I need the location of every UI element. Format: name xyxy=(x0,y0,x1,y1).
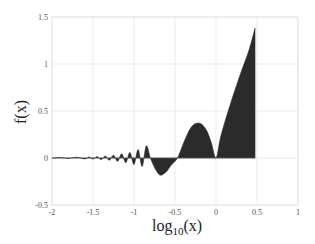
x-tick-label: -0.5 xyxy=(169,208,182,217)
y-tick-label: -0.5 xyxy=(35,201,48,210)
x-tick-label: -1 xyxy=(131,208,138,217)
x-tick-label: 1 xyxy=(296,208,300,217)
y-tick-labels: -0.500.511.5 xyxy=(35,13,48,210)
chart: -2-1.5-1-0.500.51 -0.500.511.5 log10(x) … xyxy=(0,0,315,244)
y-tick-label: 0.5 xyxy=(38,107,48,116)
x-tick-label: 0.5 xyxy=(252,208,262,217)
x-tick-label: -2 xyxy=(49,208,56,217)
x-tick-label: -1.5 xyxy=(87,208,100,217)
data-area xyxy=(52,28,255,175)
y-tick-label: 0 xyxy=(44,154,48,163)
grid-lines xyxy=(52,17,298,205)
x-tick-labels: -2-1.5-1-0.500.51 xyxy=(49,208,300,217)
x-tick-label: 0 xyxy=(214,208,218,217)
y-tick-label: 1.5 xyxy=(38,13,48,22)
y-axis-label: f(x) xyxy=(12,100,30,124)
x-axis-label: log10(x) xyxy=(152,217,202,237)
y-tick-label: 1 xyxy=(44,60,48,69)
